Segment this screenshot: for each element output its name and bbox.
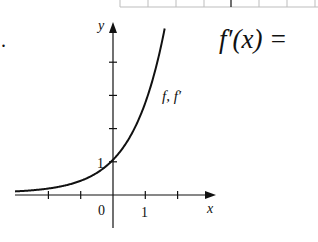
x-axis-arrow-icon [205,191,216,199]
derivative-formula: f′(x) = [219,24,287,54]
series-line-f [15,29,165,192]
y-axis-arrow-icon [109,22,117,33]
y-axis-label: y [96,18,105,33]
margin-dot: . [1,29,6,51]
axes [15,27,212,228]
table-fragment [120,0,318,7]
x-axis-label: x [206,201,214,216]
x-tick-label-0: 0 [98,203,105,218]
chart-root: . x y 0 1 1 f, f′ f′(x) = [0,0,318,242]
x-tick-label-1: 1 [141,205,148,220]
series-label-f-fprime: f, f′ [162,88,182,104]
y-tick-label-1: 1 [97,156,104,171]
